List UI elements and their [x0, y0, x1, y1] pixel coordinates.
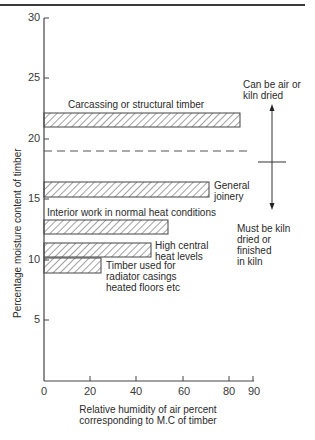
- bar-high-central-heat: [44, 243, 151, 257]
- label-radiator-2: radiator casings: [106, 271, 177, 282]
- chart-canvas: [0, 0, 315, 440]
- y-tick-15: 15: [28, 192, 40, 204]
- x-tick-0: 0: [41, 385, 47, 397]
- y-tick-5: 5: [34, 313, 40, 325]
- y-ticks: [44, 18, 49, 320]
- label-radiator-1: Timber used for: [106, 260, 176, 271]
- moisture-content-chart: 30 25 20 15 10 5 0 20 40 60 80 90 Percen…: [0, 0, 315, 440]
- x-ticks: [90, 376, 253, 381]
- bar-general-joinery: [44, 182, 209, 197]
- x-axis-title: Relative humidity of air percent corresp…: [0, 404, 296, 426]
- x-tick-90: 90: [248, 385, 260, 397]
- annotation-kiln-2: dried or: [237, 234, 271, 245]
- label-general-joinery-2: joinery: [214, 191, 243, 202]
- x-tick-60: 60: [178, 385, 190, 397]
- x-axis-title-line-2: corresponding to M.C of timber: [0, 415, 296, 426]
- arrow-up-icon: [270, 104, 275, 111]
- bar-radiator-casings: [44, 258, 101, 273]
- label-radiator-3: heated floors etc: [106, 282, 180, 293]
- bar-interior-work: [44, 220, 168, 234]
- label-carcassing: Carcassing or structural timber: [68, 99, 204, 110]
- label-general-joinery-1: General: [214, 180, 250, 191]
- y-tick-10: 10: [28, 253, 40, 265]
- y-axis-title: Percentage moisture content of timber: [12, 148, 23, 318]
- x-tick-20: 20: [84, 385, 96, 397]
- x-tick-80: 80: [223, 385, 235, 397]
- x-tick-40: 40: [130, 385, 142, 397]
- annotation-air-dried-1: Can be air or: [243, 79, 301, 90]
- x-axis-title-line-1: Relative humidity of air percent: [0, 404, 296, 415]
- annotation-kiln-3: finished: [237, 245, 271, 256]
- y-tick-30: 30: [28, 11, 40, 23]
- y-tick-25: 25: [28, 71, 40, 83]
- label-high-central-1: High central: [155, 240, 208, 251]
- annotation-kiln-4: in kiln: [237, 256, 263, 267]
- label-interior-work: Interior work in normal heat conditions: [47, 207, 216, 218]
- y-tick-20: 20: [28, 132, 40, 144]
- arrow-down-icon: [270, 203, 275, 210]
- bar-carcassing: [44, 113, 240, 127]
- annotation-kiln-1: Must be kiln: [237, 223, 290, 234]
- annotation-air-dried-2: kiln dried: [243, 90, 283, 101]
